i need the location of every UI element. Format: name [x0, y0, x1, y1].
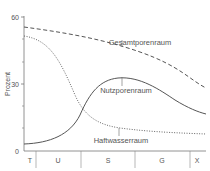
category-U: U — [55, 157, 60, 164]
category-G: G — [159, 157, 164, 164]
label-haftwasserraum: Haftwasserraum — [94, 136, 149, 145]
series-haftwasserraum — [24, 36, 206, 134]
label-gesamtporenraum: Gesamtporenraum — [109, 38, 172, 47]
y-tick-0: 0 — [15, 148, 19, 155]
category-S: S — [106, 157, 111, 164]
category-T: T — [28, 157, 33, 164]
label-nutzporenraum: Nutzporenraum — [100, 86, 152, 95]
soil-pore-chart: 60 30 0 Prozent T U S G X Gesamtporenrau… — [0, 0, 210, 171]
y-axis-label: Prozent — [4, 72, 11, 96]
y-tick-30: 30 — [11, 81, 19, 88]
category-X: X — [195, 157, 200, 164]
y-tick-60: 60 — [11, 14, 19, 21]
